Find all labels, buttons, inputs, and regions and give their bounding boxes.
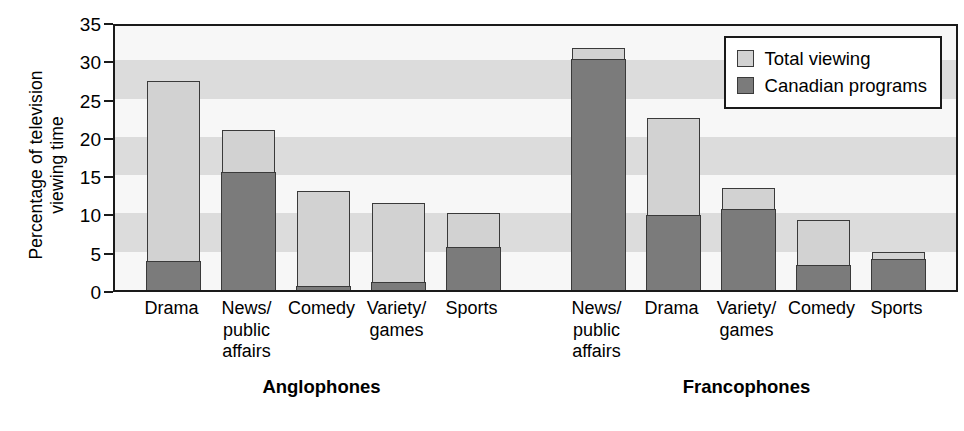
bar-total-viewing [222, 130, 275, 290]
x-axis-category-label: Sports [837, 298, 957, 320]
bar-canadian-programs [446, 247, 500, 291]
y-axis-tick-mark [104, 214, 113, 216]
bar-total-viewing [647, 118, 700, 290]
bar-canadian-programs [146, 261, 200, 291]
bar-total-viewing [447, 213, 500, 290]
x-axis-category-label-line: Sports [412, 298, 532, 320]
plot-area: Total viewing Canadian programs [113, 24, 958, 292]
y-axis-tick-label: 5 [67, 244, 101, 263]
bar-total-viewing [147, 81, 200, 290]
y-axis-tick-mark [104, 61, 113, 63]
x-axis-category-label-line: Sports [837, 298, 957, 320]
y-axis-tick-mark [104, 138, 113, 140]
y-axis-tick-label: 10 [67, 206, 101, 225]
y-axis-tick-label: 20 [67, 129, 101, 148]
y-axis-tick-mark [104, 176, 113, 178]
y-axis-tick-label: 0 [67, 283, 101, 302]
bar-total-viewing [722, 188, 775, 290]
bar-canadian-programs [796, 265, 850, 290]
bar-total-viewing [872, 252, 925, 290]
y-axis-tick-label: 30 [67, 53, 101, 72]
bar-total-viewing [797, 220, 850, 290]
bar-total-viewing [572, 48, 625, 290]
x-axis-category-label-line: affairs [537, 341, 657, 363]
chart-legend: Total viewing Canadian programs [724, 36, 942, 109]
y-axis-tick-label: 25 [67, 91, 101, 110]
bar-canadian-programs [871, 259, 925, 290]
x-axis-category-label-line: public [537, 320, 657, 342]
y-axis-tick-mark [104, 100, 113, 102]
y-axis-tick-mark [104, 23, 113, 25]
bar-canadian-programs [646, 215, 700, 291]
y-axis-title-line-1: Percentage of television [26, 70, 47, 259]
y-axis-tick-label: 15 [67, 168, 101, 187]
bar-total-viewing [372, 203, 425, 290]
legend-label-canadian-programs: Canadian programs [765, 75, 927, 97]
x-axis-category-label-line: games [687, 320, 807, 342]
bar-canadian-programs [221, 172, 275, 291]
legend-label-total-viewing: Total viewing [765, 48, 871, 70]
bar-total-viewing [297, 191, 350, 290]
y-axis-tick-label: 35 [67, 15, 101, 34]
bar-canadian-programs [296, 286, 350, 291]
x-axis-category-label-line: games [337, 320, 457, 342]
legend-swatch-total-viewing-icon [737, 50, 754, 67]
chart-figure: Percentage of television viewing time 05… [0, 0, 964, 431]
y-axis-title-line-2: viewing time [47, 116, 68, 213]
legend-item-canadian-programs: Canadian programs [737, 72, 927, 99]
x-axis-category-label-line: public [187, 320, 307, 342]
y-axis-tick-mark [104, 253, 113, 255]
x-axis-group-label: Francophones [627, 376, 867, 398]
bar-canadian-programs [571, 59, 625, 291]
legend-item-total-viewing: Total viewing [737, 45, 927, 72]
x-axis-category-label: Sports [412, 298, 532, 320]
legend-swatch-canadian-programs-icon [737, 77, 754, 94]
bar-canadian-programs [721, 209, 775, 291]
x-axis-category-label-line: affairs [187, 341, 307, 363]
bar-canadian-programs [371, 282, 425, 290]
y-axis-tick-mark [104, 291, 113, 293]
x-axis-group-label: Anglophones [202, 376, 442, 398]
